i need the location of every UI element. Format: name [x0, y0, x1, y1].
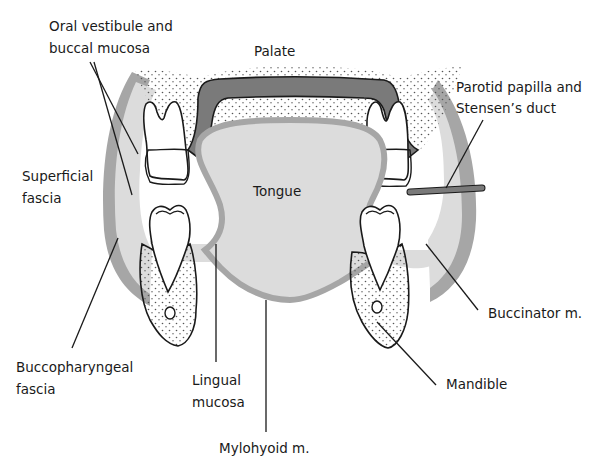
label-buccopharyngeal-line2: fascia [16, 381, 56, 397]
label-oral-vestibule-line1: Oral vestibule and [49, 18, 173, 34]
label-superficial-fascia-line1: Superficial [22, 168, 93, 184]
label-lingual-mucosa-line2: mucosa [192, 394, 245, 410]
upper-left-tooth [144, 102, 188, 180]
label-tongue: Tongue [252, 183, 301, 199]
label-buccinator: Buccinator m. [488, 305, 582, 321]
label-mandible: Mandible [446, 376, 507, 392]
label-parotid-line2: Stensen’s duct [456, 100, 556, 116]
label-superficial-fascia-line2: fascia [22, 190, 62, 206]
oral-cavity-coronal-diagram: Oral vestibule and buccal mucosa Palate … [0, 0, 601, 476]
lower-left-tooth-and-mandible [140, 206, 197, 347]
label-parotid-line1: Parotid papilla and [456, 79, 582, 95]
label-palate: Palate [254, 43, 295, 59]
label-buccopharyngeal-line1: Buccopharyngeal [16, 359, 133, 375]
label-lingual-mucosa-line1: Lingual [192, 372, 241, 388]
label-mylohyoid: Mylohyoid m. [219, 440, 310, 456]
label-oral-vestibule-line2: buccal mucosa [49, 40, 150, 56]
stensens-duct [410, 188, 482, 192]
